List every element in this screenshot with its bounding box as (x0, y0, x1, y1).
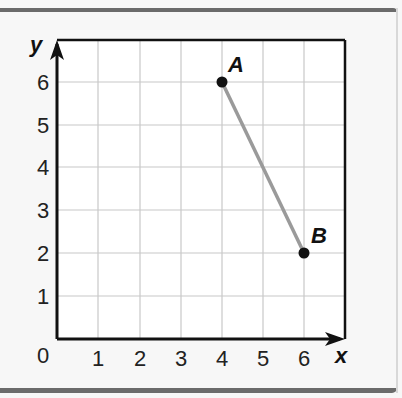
y-tick-2: 2 (37, 241, 49, 266)
y-tick-4: 4 (37, 155, 49, 180)
point-b-label: B (311, 223, 327, 248)
x-tick-6: 6 (298, 346, 310, 371)
y-tick-6: 6 (37, 70, 49, 95)
y-tick-3: 3 (37, 198, 49, 223)
coordinate-plane: A B y x 6 5 4 3 2 1 0 1 2 3 4 5 6 (0, 0, 402, 398)
plot-area (57, 40, 345, 339)
chart-card: A B y x 6 5 4 3 2 1 0 1 2 3 4 5 6 (0, 0, 402, 398)
y-tick-1: 1 (37, 284, 49, 309)
x-axis-label: x (334, 343, 348, 368)
y-tick-5: 5 (37, 113, 49, 138)
origin-label: 0 (37, 343, 49, 368)
x-tick-4: 4 (216, 346, 228, 371)
point-a-label: A (227, 52, 244, 77)
y-axis-label: y (29, 32, 44, 57)
point-b (299, 248, 310, 259)
x-tick-3: 3 (175, 346, 187, 371)
x-tick-1: 1 (92, 346, 104, 371)
point-a (217, 77, 228, 88)
x-tick-5: 5 (257, 346, 269, 371)
x-tick-2: 2 (134, 346, 146, 371)
